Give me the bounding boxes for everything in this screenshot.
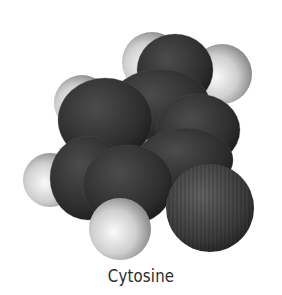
hydrogen-atoms-front: [89, 198, 151, 260]
molecule-caption: Cytosine: [17, 266, 265, 286]
cytosine-space-filling-model: [0, 0, 282, 295]
oxygen-atom: [166, 164, 254, 252]
oxygen-texture: [166, 164, 254, 252]
hydrogen-atom: [89, 198, 151, 260]
